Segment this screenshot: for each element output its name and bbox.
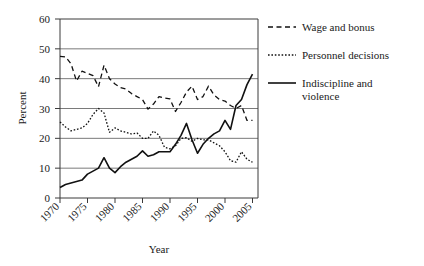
x-tick-label: 1980	[92, 200, 116, 224]
x-axis-ticks	[60, 198, 253, 203]
series-indiscipline-and-violence	[60, 74, 253, 187]
gridlines	[60, 49, 258, 168]
line-chart: 60 50 40 30 20 10 0 1970 1975 1980 1985 …	[0, 0, 424, 266]
y-tick-label: 30	[39, 103, 51, 115]
chart-figure: 60 50 40 30 20 10 0 1970 1975 1980 1985 …	[0, 0, 424, 266]
x-tick-label: 1995	[175, 200, 199, 224]
legend-label-indiscipline-and-violence: Indiscipline and	[302, 77, 373, 89]
x-tick-label: 1975	[65, 200, 89, 224]
y-axis-ticks	[55, 19, 60, 198]
x-tick-label: 2000	[202, 200, 226, 224]
legend-label-wage-and-bonus: Wage and bonus	[302, 21, 374, 33]
y-tick-label: 20	[39, 132, 51, 144]
x-tick-label: 2005	[230, 200, 254, 224]
y-tick-label: 50	[39, 43, 51, 55]
y-tick-labels: 60 50 40 30 20 10 0	[39, 13, 51, 204]
x-tick-label: 1985	[120, 200, 144, 224]
legend-label-indiscipline-and-violence-line2: violence	[302, 90, 339, 102]
x-tick-labels: 1970 1975 1980 1985 1990 1995 2000 2005	[37, 200, 254, 224]
x-tick-label: 1990	[147, 200, 171, 224]
y-tick-label: 10	[39, 162, 51, 174]
series-wage-and-bonus	[60, 56, 253, 120]
x-tick-label: 1970	[37, 200, 61, 224]
y-axis-title: Percent	[16, 92, 28, 125]
chart-legend: Wage and bonus Personnel decisions Indis…	[268, 21, 389, 102]
x-axis-title: Year	[149, 243, 170, 255]
y-tick-label: 40	[39, 73, 51, 85]
legend-label-personnel-decisions: Personnel decisions	[302, 49, 389, 61]
y-tick-label: 60	[39, 13, 51, 25]
